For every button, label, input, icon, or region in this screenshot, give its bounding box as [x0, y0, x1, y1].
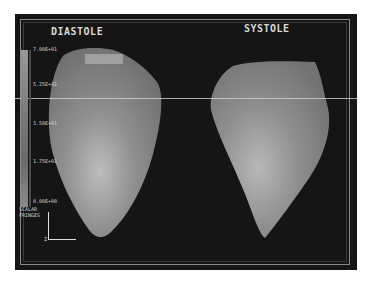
colorbar-title-line2: FRINGES — [19, 212, 40, 218]
axis-z-label: Z — [44, 236, 47, 242]
diastole-label: DIASTOLE — [51, 26, 103, 37]
axis-triad-horizontal — [48, 239, 76, 240]
systole-label: SYSTOLE — [244, 23, 290, 34]
scalar-fringe-colorbar — [21, 50, 28, 207]
colorbar-tick-max: 7.00E+01 — [33, 46, 57, 52]
axis-triad-vertical — [48, 212, 49, 239]
display-screen: DIASTOLE SYSTOLE 7.00E+01 5.25E+01 3.50E… — [15, 14, 357, 270]
colorbar-tick-min: 0.00E+00 — [33, 198, 57, 204]
systole-ventricle — [211, 61, 329, 238]
colorbar-tick: 1.75E+01 — [33, 158, 57, 164]
ventricle-renderings — [15, 14, 357, 270]
colorbar-tick: 5.25E+01 — [33, 81, 57, 87]
scan-line-artifact — [15, 98, 357, 99]
diastole-ventricle — [49, 48, 161, 237]
colorbar-tick: 3.50E+01 — [33, 120, 57, 126]
